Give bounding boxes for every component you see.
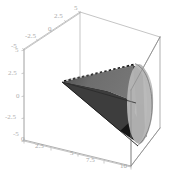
y-tick-label: -2.5 xyxy=(25,33,36,40)
x-tick-label: 2.5 xyxy=(35,143,44,150)
x-tick-label: 0 xyxy=(21,136,25,143)
cone-surface xyxy=(62,64,153,148)
x-tick-label: 5 xyxy=(70,150,74,157)
z-tick-label: 2.5 xyxy=(8,70,17,77)
x-tick-label: 10 xyxy=(120,163,127,170)
x-tick-label: 7.5 xyxy=(86,157,95,164)
y-tick-label: 0 xyxy=(48,26,52,33)
plot-figure: 0 2.5 5 7.5 10 5 2.5 0 -2.5 -5 -5 -2.5 0… xyxy=(0,0,169,181)
plot-canvas xyxy=(0,0,169,181)
z-tick-label: -5 xyxy=(13,131,19,138)
z-tick-label: 0 xyxy=(16,93,20,100)
z-tick-label: -2.5 xyxy=(5,114,16,121)
y-tick-label: -5 xyxy=(11,43,17,50)
y-tick-label: 5 xyxy=(74,5,78,12)
y-tick-label: 2.5 xyxy=(54,13,63,20)
